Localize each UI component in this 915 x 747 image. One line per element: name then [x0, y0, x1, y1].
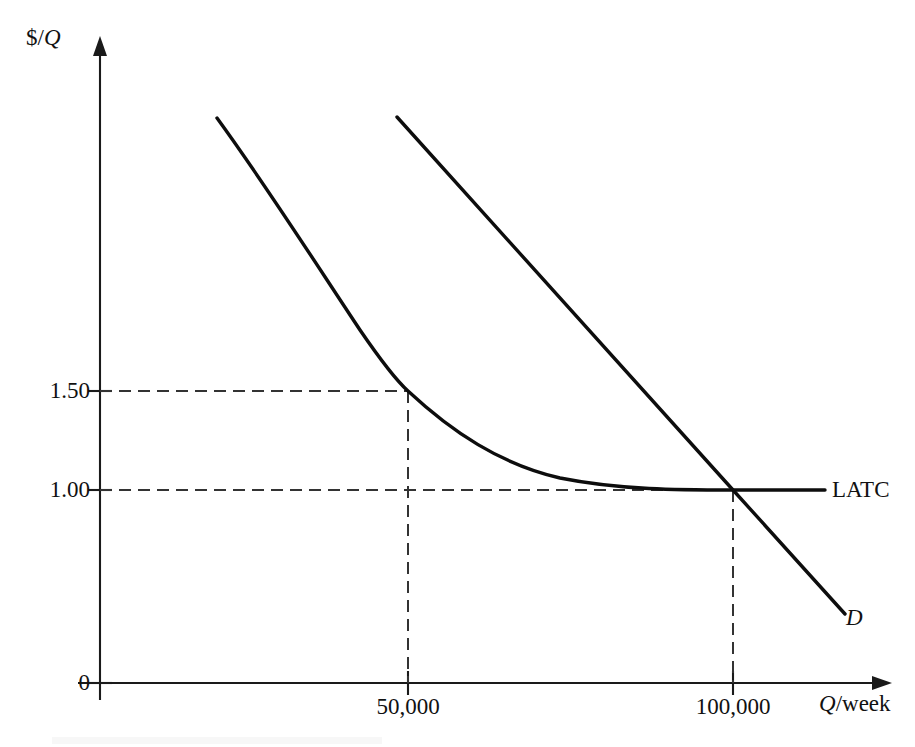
- demand-curve-label: D: [846, 606, 863, 629]
- y-axis-title-variable: Q: [44, 25, 61, 50]
- figure-canvas: $/Q Q/week 1.50 1.00 0 50,000 100,000 LA…: [0, 0, 915, 747]
- y-axis: [93, 36, 107, 700]
- x-axis-title-variable: Q: [819, 691, 836, 716]
- x-tick-label-100000: 100,000: [675, 695, 791, 718]
- x-axis-title: Q/week: [819, 692, 891, 715]
- latc-curve-label: LATC: [832, 478, 890, 501]
- origin-label: 0: [16, 671, 90, 694]
- x-axis: [78, 676, 892, 690]
- y-tick-label-150: 1.50: [16, 379, 90, 402]
- y-tick-label-100: 1.00: [16, 478, 90, 501]
- latc-curve: [217, 118, 825, 490]
- x-tick-label-50000: 50,000: [356, 695, 460, 718]
- chart-plot-area: [0, 0, 915, 747]
- y-axis-title: $/Q: [26, 26, 61, 49]
- caption-strip-partial: [52, 737, 382, 744]
- demand-curve: [397, 117, 845, 614]
